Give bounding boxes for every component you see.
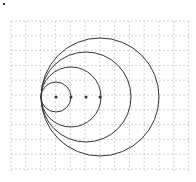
diagram-canvas (0, 0, 196, 182)
center-dot-3 (85, 96, 88, 99)
center-dot-4 (99, 96, 102, 99)
center-dots (55, 96, 102, 99)
center-dot-2 (70, 96, 73, 99)
center-dot-1 (55, 96, 58, 99)
corner-mark (3, 3, 5, 5)
